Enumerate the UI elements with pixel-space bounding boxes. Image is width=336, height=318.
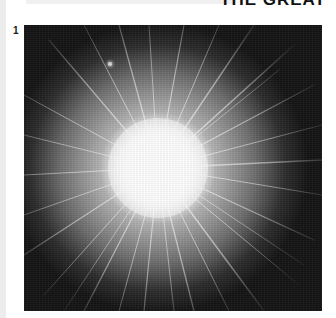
distant-star-dot <box>108 62 112 66</box>
figure-number: 1 <box>13 25 19 37</box>
page-margin-strip <box>0 0 6 318</box>
starburst-figure-image <box>24 25 322 311</box>
header-text-remnant <box>26 0 236 4</box>
page-header: THE GREAT <box>0 0 336 8</box>
burst-core-glow <box>108 118 208 218</box>
running-header-title: THE GREAT <box>220 0 326 8</box>
